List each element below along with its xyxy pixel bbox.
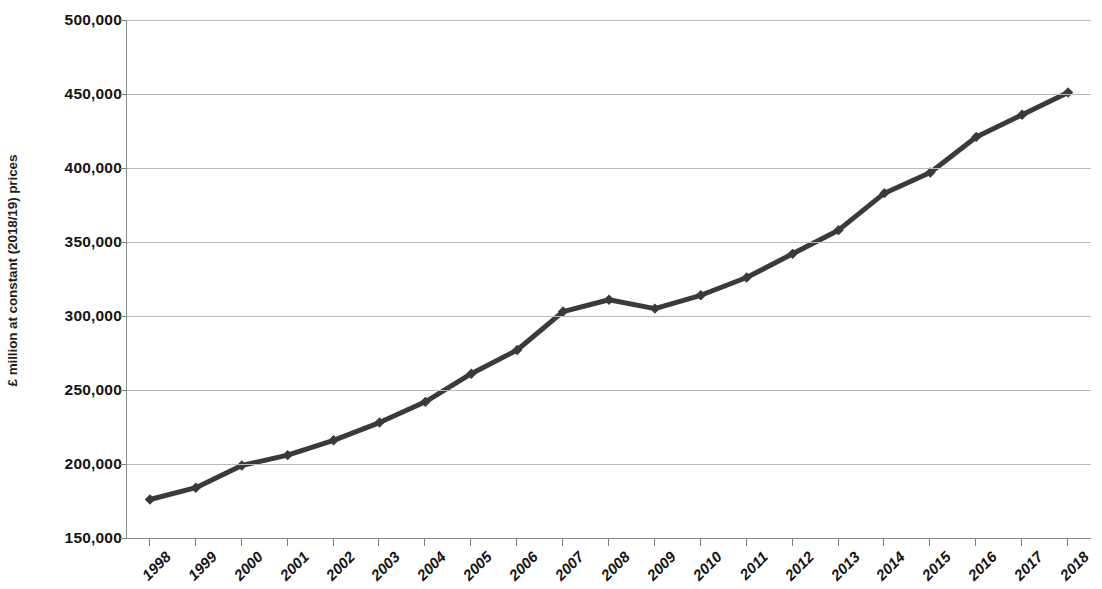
y-axis-tick-label: 400,000 — [26, 159, 122, 177]
x-axis-tick — [792, 539, 793, 546]
x-axis-tick-label: 2010 — [689, 548, 725, 584]
x-axis-tick-label: 2001 — [276, 548, 312, 584]
x-axis-tick — [654, 539, 655, 546]
data-point-marker — [604, 295, 614, 305]
gridline — [127, 390, 1091, 391]
x-axis-tick-label: 1999 — [184, 548, 220, 584]
x-axis-tick — [195, 539, 196, 546]
gridline — [127, 168, 1091, 169]
y-axis-tick-label: 350,000 — [26, 233, 122, 251]
y-axis-tick-label: 500,000 — [26, 11, 122, 29]
x-axis-tick-label: 2006 — [506, 548, 542, 584]
x-axis-tick — [975, 539, 976, 546]
x-axis-tick — [287, 539, 288, 546]
x-axis-tick — [378, 539, 379, 546]
y-axis-tick-label: 300,000 — [26, 307, 122, 325]
x-axis-tick-label: 2013 — [827, 548, 863, 584]
y-axis-tick — [120, 390, 127, 391]
x-axis-tick-label: 2016 — [965, 548, 1001, 584]
x-axis-tick — [883, 539, 884, 546]
x-axis-tick — [470, 539, 471, 546]
x-axis-tick — [333, 539, 334, 546]
x-axis-tick — [746, 539, 747, 546]
y-axis-tick-label: 250,000 — [26, 381, 122, 399]
x-axis-tick — [241, 539, 242, 546]
x-axis-tick — [929, 539, 930, 546]
x-axis-tick-label: 2003 — [368, 548, 404, 584]
x-axis-tick — [149, 539, 150, 546]
gridline — [127, 464, 1091, 465]
x-axis-tick-label: 2008 — [597, 548, 633, 584]
y-axis-tick — [120, 168, 127, 169]
y-axis-tick — [120, 94, 127, 95]
x-axis-tick — [1067, 539, 1068, 546]
x-axis-tick-label: 2018 — [1056, 548, 1092, 584]
gridline — [127, 316, 1091, 317]
y-axis-tick — [120, 242, 127, 243]
x-axis-tick-label: 2009 — [643, 548, 679, 584]
x-axis-tick — [424, 539, 425, 546]
data-point-marker — [145, 494, 155, 504]
gridline — [127, 20, 1091, 21]
x-axis-tick-label: 2012 — [781, 548, 817, 584]
x-axis-tick-label: 2007 — [551, 548, 587, 584]
x-axis-tick-label: 2002 — [322, 548, 358, 584]
x-axis-tick-label: 2011 — [736, 548, 771, 583]
y-axis-tick-label: 150,000 — [26, 529, 122, 547]
x-axis-tick — [562, 539, 563, 546]
x-axis-tick — [838, 539, 839, 546]
x-axis-tick — [700, 539, 701, 546]
x-axis-tick-label: 2004 — [414, 548, 450, 584]
line-chart: £ million at constant (2018/19) prices 1… — [0, 0, 1102, 589]
y-axis-tick-label: 200,000 — [26, 455, 122, 473]
plot-area — [126, 20, 1091, 539]
x-axis-tick-labels: 1998199920002001200220032004200520062007… — [126, 548, 1090, 589]
y-axis-tick-label: 450,000 — [26, 85, 122, 103]
x-axis-tick — [516, 539, 517, 546]
gridline — [127, 242, 1091, 243]
x-axis-tick-label: 2017 — [1011, 548, 1047, 584]
x-axis-tick — [1021, 539, 1022, 546]
x-axis-tick-label: 2015 — [919, 548, 955, 584]
y-axis-title-text: £ million at constant (2018/19) prices — [6, 154, 21, 386]
y-axis-tick — [120, 316, 127, 317]
y-axis-tick-labels: 150,000200,000250,000300,000350,000400,0… — [22, 0, 122, 589]
series-line-svg — [127, 20, 1091, 538]
y-axis-tick — [120, 464, 127, 465]
x-axis-tick-label: 2005 — [460, 548, 496, 584]
x-axis-ticks — [126, 539, 1090, 547]
x-axis-tick-label: 2014 — [873, 548, 909, 584]
gridline — [127, 94, 1091, 95]
y-axis-tick — [120, 20, 127, 21]
x-axis-tick — [608, 539, 609, 546]
x-axis-tick-label: 2000 — [230, 548, 266, 584]
x-axis-tick-label: 1998 — [138, 548, 174, 584]
